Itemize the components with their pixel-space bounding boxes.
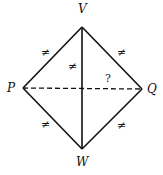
edge-pq-dashed [23,88,142,89]
diagram-canvas: V P Q W ≠ ≠ ≠ ≠ ≠ ? [0,0,163,175]
not-equal-mark-vq: ≠ [117,46,126,59]
vertex-label-q: Q [147,82,157,96]
not-equal-mark-wq: ≠ [117,119,126,132]
not-equal-mark-pw: ≠ [41,118,50,131]
not-equal-mark-pv: ≠ [41,46,50,59]
edge-wq [82,89,142,149]
edge-pw [23,88,82,149]
unknown-mark-pq: ? [105,72,111,85]
vertex-label-v: V [78,2,88,16]
not-equal-mark-vw: ≠ [68,60,77,73]
edge-pv [23,27,82,88]
vertex-label-w: W [76,155,90,169]
edge-vq [82,27,142,89]
vertex-label-p: P [6,81,16,95]
